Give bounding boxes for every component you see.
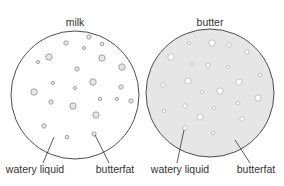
milk-droplet [119, 64, 125, 70]
butter-label-butterfat: butterfat [237, 164, 276, 175]
butter-droplet [236, 101, 240, 105]
milk-droplet [51, 81, 54, 84]
milk-label-butterfat: butterfat [96, 164, 135, 175]
butter-droplet [209, 40, 215, 46]
butter-droplet [168, 54, 174, 60]
milk-droplet [36, 60, 39, 63]
butter-droplet [200, 90, 203, 93]
butter-label-watery-liquid: watery liquid [151, 164, 209, 175]
milk-droplet [100, 42, 104, 46]
butter-droplet [161, 83, 165, 87]
butter-droplet [226, 65, 229, 68]
milk-droplet [119, 85, 123, 89]
butter-droplet [212, 106, 215, 109]
butter-title: butter [197, 17, 224, 28]
butter-droplet [245, 50, 249, 54]
milk-droplet [73, 86, 76, 89]
milk-droplet [87, 35, 91, 39]
milk-droplet [31, 89, 37, 95]
butter-droplet [240, 117, 244, 121]
milk-title: milk [66, 17, 85, 28]
butter-droplet [197, 114, 203, 120]
butter-droplet [217, 88, 223, 94]
milk-droplet [46, 54, 52, 60]
butter-droplet [236, 79, 242, 85]
milk-droplet [70, 103, 76, 109]
milk-droplet [129, 99, 133, 103]
butter-droplet [206, 63, 210, 67]
butter-droplet [162, 109, 165, 112]
milk-droplet [49, 100, 53, 104]
butter-droplet [227, 43, 231, 47]
butter-droplet [185, 78, 191, 84]
milk-droplet [75, 67, 79, 71]
butter-droplet [255, 95, 261, 101]
milk-circle [11, 31, 139, 159]
milk-droplet [64, 41, 68, 45]
butter-circle [146, 29, 274, 157]
milk-droplet [98, 97, 102, 101]
milk-droplet [42, 124, 46, 128]
milk-droplet [93, 112, 99, 118]
butter-droplet [258, 73, 262, 77]
butter-droplet [183, 126, 187, 130]
milk-droplet [82, 46, 85, 49]
milk-label-watery-liquid: watery liquid [6, 164, 64, 175]
diagram-canvas [0, 0, 284, 186]
butter-droplet [190, 62, 194, 66]
milk-droplet [65, 135, 69, 139]
butter-droplet [211, 131, 215, 135]
milk-droplet [99, 55, 105, 61]
milk-droplet [115, 97, 118, 100]
milk-droplet [90, 79, 96, 85]
butter-droplet [183, 104, 187, 108]
butter-droplet [187, 41, 190, 44]
